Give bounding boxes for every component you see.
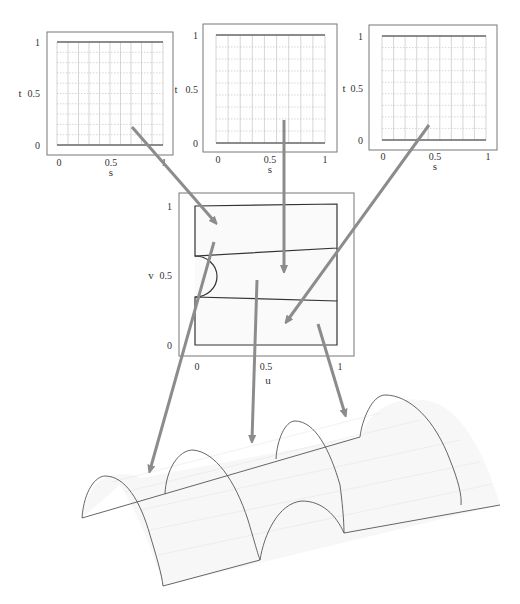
ytick-0: 0 [35,140,40,151]
xtick-0: 0 [195,361,200,372]
axes-frame [369,25,497,150]
ytick-0: 0 [358,135,363,146]
vault-shading [82,400,500,586]
y-axis-label: v [148,269,154,281]
y-axis-label: t [174,83,177,95]
surface-3d [82,395,500,586]
ytick-0: 0 [167,340,172,351]
xtick-1: 1 [338,361,343,372]
y-axis-label: t [342,82,345,94]
xtick-0: 0 [216,154,221,165]
xtick-1: 1 [486,151,491,162]
ytick-0: 0 [193,138,198,149]
param-panel-2: 1 0.5 0 t 0 0.5 1 s [174,24,337,175]
domain-fill [195,204,337,345]
grid [382,36,486,140]
ytick-1: 1 [193,30,198,41]
xtick-0: 0 [381,151,386,162]
ytick-0.5: 0.5 [28,88,41,99]
ytick-0.5: 0.5 [160,270,173,281]
x-axis-label: s [268,163,272,175]
domain-panel: 1 0.5 0 v 0 0.5 1 u [148,193,354,386]
ytick-1: 1 [35,37,40,48]
grid [57,42,163,145]
x-axis-label: s [109,166,113,178]
ytick-0.5: 0.5 [351,83,364,94]
x-axis-label: u [265,374,271,386]
xtick-0.5: 0.5 [260,361,273,372]
axes-frame [203,24,337,152]
grid [216,35,325,143]
param-panel-1: 1 0.5 0 t 0 0.5 1 s [18,32,173,178]
figure-canvas: 1 0.5 0 t 0 0.5 1 s [0,0,520,604]
ytick-1: 1 [167,201,172,212]
ytick-1: 1 [358,31,363,42]
y-axis-label: t [18,87,21,99]
param-panel-3: 1 0.5 0 t 0 0.5 1 s [342,25,497,172]
ytick-0.5: 0.5 [186,84,199,95]
xtick-0: 0 [57,157,62,168]
x-axis-label: s [433,160,437,172]
xtick-1: 1 [323,154,328,165]
